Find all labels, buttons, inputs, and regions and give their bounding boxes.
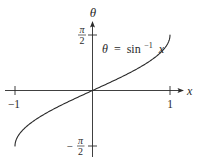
function-label: θ = sin −1 x [102,37,165,56]
y-tick-numerator: π [79,24,85,35]
function-equals: = [114,42,121,56]
function-lhs: θ [102,42,108,56]
y-axis-label: θ [90,5,97,20]
x-axis-label: x [186,84,193,98]
arcsin-chart: x −1 1 θ π 2 − π 2 θ = sin −1 [0,0,201,168]
y-tick-label-neg-pi-over-2: − π 2 [66,135,84,158]
function-superscript: −1 [144,41,153,50]
y-axis: θ [90,5,97,157]
x-axis: x [5,84,193,98]
y-tick-numerator: π [78,135,84,146]
y-tick-denominator: 2 [80,35,85,46]
y-tick-sign: − [66,140,72,152]
x-tick-label-1: 1 [167,98,173,110]
y-tick-denominator: 2 [78,146,83,157]
y-tick-label-pi-over-2: π 2 [78,24,86,47]
function-name: sin [127,42,141,56]
x-tick-label-neg1: −1 [8,98,20,110]
function-arg: x [158,42,165,56]
x-ticks: −1 1 [8,86,173,110]
